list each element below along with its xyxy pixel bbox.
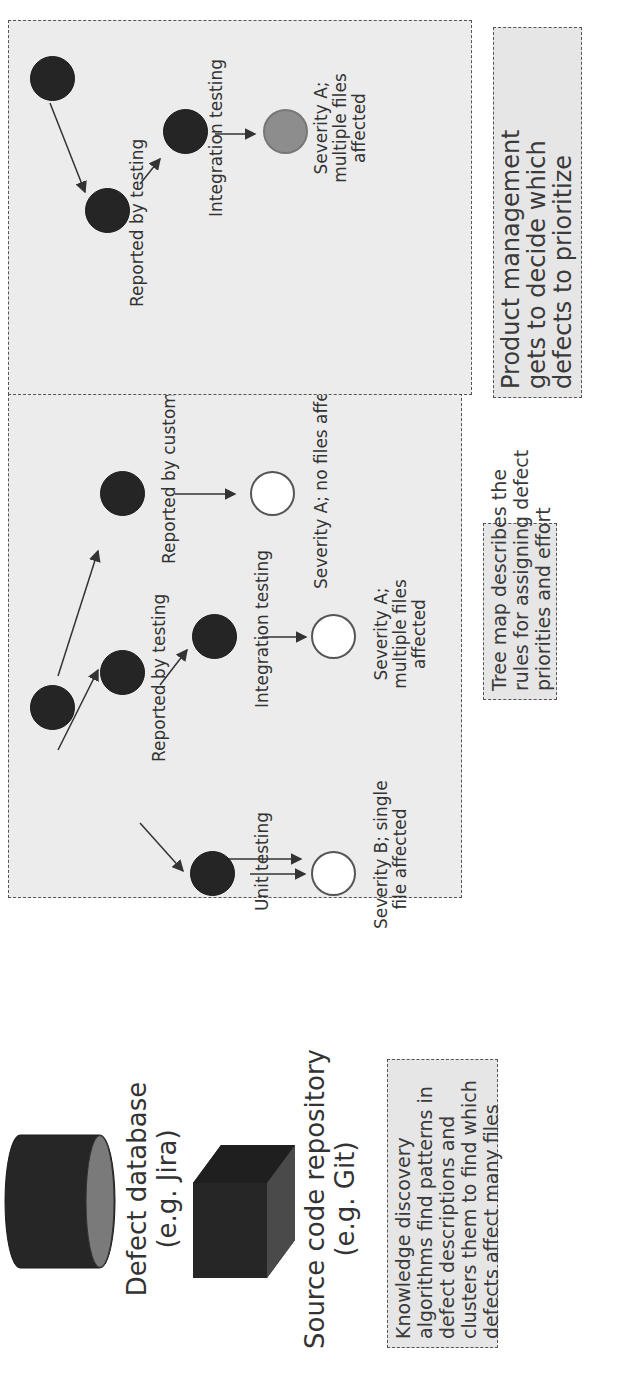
- knowledge-discovery-note: Knowledge discovery algorithms find patt…: [387, 1059, 498, 1348]
- prioritized-edge-label-testing: Reported by testing: [128, 139, 147, 307]
- prioritized-leaf-label: Severity A; multiple files affected: [312, 73, 369, 183]
- note-line: clusters them to find which: [458, 1068, 480, 1339]
- leaf-label-line: Severity B; single: [372, 789, 391, 929]
- severity-b-single-leaf: [311, 851, 356, 896]
- diagram-canvas: Defect database (e.g. Jira) Source code …: [0, 0, 641, 1399]
- note-line: Knowledge discovery: [392, 1068, 414, 1339]
- edge-label-integration-testing: Integration testing: [253, 550, 272, 708]
- note-line: algorithms find patterns in: [414, 1068, 436, 1339]
- tree-root-node: [30, 685, 75, 730]
- note-line: priorities and effort: [532, 532, 554, 691]
- reported-by-customer-node: [100, 471, 145, 516]
- severity-b-single-label: Severity B; single file affected: [372, 789, 410, 929]
- note-line: gets to decide which: [524, 36, 550, 389]
- severity-a-none-leaf: [250, 471, 295, 516]
- severity-a-multiple-label: Severity A; multiple files affected: [372, 569, 429, 699]
- defect-database-example: (e.g. Jira): [152, 1039, 182, 1339]
- edge-label-unit-testing: Unit testing: [253, 812, 272, 911]
- severity-a-multiple-leaf: [311, 614, 356, 659]
- defect-database-label: Defect database (e.g. Jira): [122, 1039, 182, 1339]
- product-management-note: Product management gets to decide which …: [493, 27, 582, 398]
- prioritized-root-node: [30, 56, 75, 101]
- prioritized-edge-label-integration: Integration testing: [207, 59, 226, 217]
- leaf-label-line: file affected: [391, 789, 410, 929]
- leaf-label-line: affected: [350, 73, 369, 183]
- leaf-label-line: Severity A;: [312, 73, 331, 183]
- prioritized-integration-node: [163, 109, 208, 154]
- reported-by-testing-node: [100, 650, 145, 695]
- source-repository-title: Source code repository: [300, 1034, 330, 1364]
- leaf-label-line: Severity A;: [372, 569, 391, 699]
- defect-database-title: Defect database: [122, 1039, 152, 1339]
- note-line: defects to prioritize: [550, 36, 576, 389]
- unit-testing-node: [190, 851, 235, 896]
- leaf-label-line: affected: [410, 569, 429, 699]
- prioritized-panel: [8, 20, 472, 395]
- source-repository-label: Source code repository (e.g. Git): [300, 1034, 360, 1364]
- leaf-label-line: multiple files: [331, 73, 350, 183]
- prioritized-testing-node: [85, 188, 130, 233]
- tree-map-note: Tree map describes the rules for assigni…: [483, 523, 557, 700]
- note-line: defect descriptions and: [436, 1068, 458, 1339]
- database-cylinder-icon: [5, 1135, 115, 1268]
- note-line: Product management: [498, 36, 524, 389]
- leaf-label-line: multiple files: [391, 569, 410, 699]
- source-repository-example: (e.g. Git): [330, 1034, 360, 1364]
- note-line: defects affect many files: [480, 1068, 502, 1339]
- note-line: Tree map describes the: [488, 532, 510, 691]
- edge-label-reported-by-testing: Reported by testing: [150, 594, 169, 762]
- note-line: rules for assigning defect: [510, 532, 532, 691]
- prioritized-selected-leaf: [263, 109, 308, 154]
- integration-testing-node: [192, 614, 237, 659]
- edge-label-reported-by-customer: Reported by customer: [160, 375, 179, 564]
- repository-cube-icon: [193, 1145, 295, 1278]
